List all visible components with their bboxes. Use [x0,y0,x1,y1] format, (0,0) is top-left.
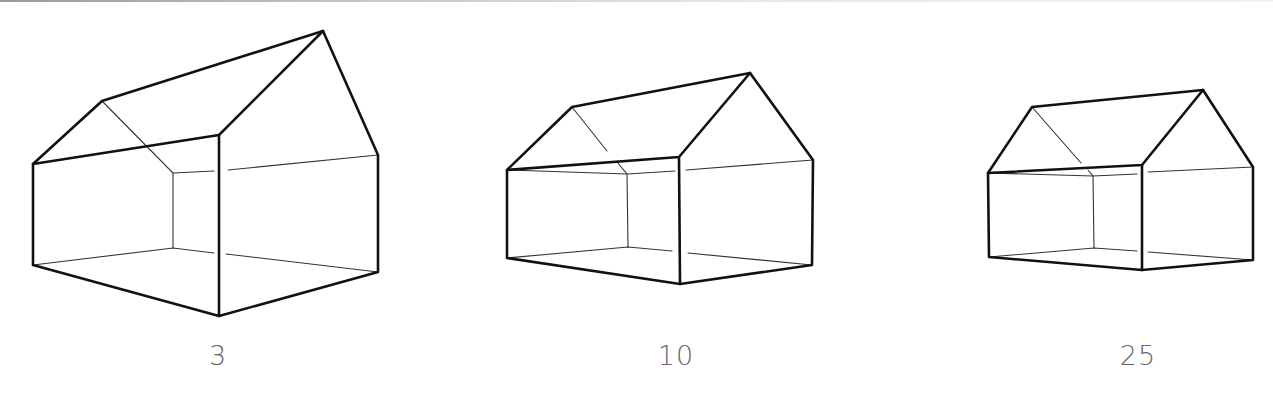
house-drawing-2 [507,73,813,284]
perspective-drawing [0,0,1273,394]
house-label-2: 10 [636,340,716,371]
house-label-3: 25 [1098,340,1178,371]
house-drawing-1 [33,31,378,316]
house-label-1: 3 [178,340,258,371]
house-drawing-3 [988,90,1253,270]
